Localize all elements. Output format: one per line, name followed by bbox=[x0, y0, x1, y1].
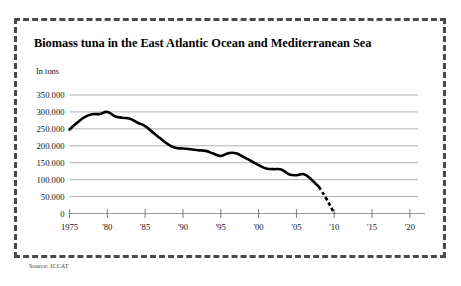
x-axis-tick-label: '00 bbox=[254, 222, 264, 232]
chart-figure: Biomass tuna in the East Atlantic Ocean … bbox=[0, 0, 461, 286]
x-axis-tick-label: '85 bbox=[140, 222, 150, 232]
y-axis-tick-labels: 050.000100.000150.000200.000250.000300.0… bbox=[37, 90, 65, 219]
x-axis-tick-label: '05 bbox=[291, 222, 301, 232]
x-axis-group bbox=[70, 209, 426, 218]
x-axis-tick-label: '20 bbox=[405, 222, 415, 232]
y-axis-tick-label: 350.000 bbox=[37, 90, 65, 100]
x-axis-tick-label: '15 bbox=[367, 222, 377, 232]
y-axis-tick-label: 100.000 bbox=[37, 175, 65, 185]
series-line-observed bbox=[70, 112, 320, 187]
x-axis-tick-label: '90 bbox=[178, 222, 188, 232]
x-axis-tick-label: '10 bbox=[329, 222, 339, 232]
gridlines-group bbox=[70, 95, 419, 197]
y-axis-tick-label: 0 bbox=[60, 209, 64, 219]
y-axis-tick-label: 200.000 bbox=[37, 141, 65, 151]
y-axis-tick-label: 300.000 bbox=[37, 107, 65, 117]
x-axis-tick-label: '80 bbox=[102, 222, 112, 232]
y-axis-tick-label: 50.000 bbox=[41, 192, 65, 202]
source-note: Source: ICCAT bbox=[29, 262, 69, 269]
y-axis-tick-label: 150.000 bbox=[37, 158, 65, 168]
series-line-projected bbox=[319, 187, 334, 213]
chart-plot-area: 050.000100.000150.000200.000250.000300.0… bbox=[0, 0, 461, 286]
y-axis-tick-label: 250.000 bbox=[37, 124, 65, 134]
x-axis-tick-label: '95 bbox=[216, 222, 226, 232]
x-axis-tick-label: 1975 bbox=[61, 222, 78, 232]
x-axis-tick-labels: 1975'80'85'90'95'00'05'10'15'20 bbox=[61, 222, 415, 232]
